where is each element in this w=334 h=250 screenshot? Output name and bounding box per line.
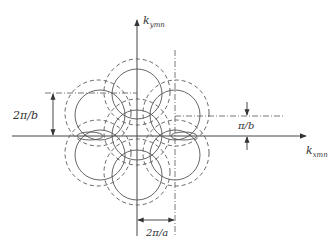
axes bbox=[12, 20, 306, 236]
x-axis-label: kxmn bbox=[306, 144, 328, 159]
y-axis-label: kymn bbox=[143, 14, 165, 29]
label-2pi-a: 2π/a bbox=[145, 227, 168, 238]
k-space-circle-diagram: 2π/b π/b 2π/a kymn kxmn bbox=[0, 0, 334, 250]
label-2pi-b: 2π/b bbox=[12, 109, 38, 122]
reference-lines bbox=[45, 50, 285, 236]
label-pi-b: π/b bbox=[237, 120, 254, 131]
